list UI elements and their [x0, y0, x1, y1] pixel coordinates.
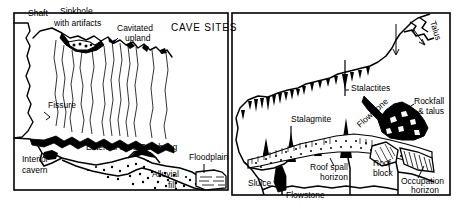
label-roof: Roof	[373, 158, 392, 168]
label-interior: Interior	[22, 154, 49, 164]
label-external-cave-overhang: External cave Overhang	[86, 142, 177, 152]
label-stalagmite: Stalagmite	[291, 114, 331, 124]
figure-title: CAVE SITES	[171, 22, 237, 33]
label-sinkhole: Sinkhole	[60, 6, 93, 16]
floodplain-water	[196, 170, 226, 190]
label-fill: fill	[168, 180, 176, 190]
figure-canvas: Shaft Sinkhole with artifacts Cavitated …	[0, 0, 459, 222]
label-upland: upland	[125, 33, 151, 43]
label-roof-spall: Roof spall	[310, 162, 348, 172]
cave-sites-figure: Shaft Sinkhole with artifacts Cavitated …	[0, 0, 459, 222]
label-alluvial: Alluvial	[152, 169, 179, 179]
label-floodplain: Floodplain	[189, 152, 228, 162]
label-flowstone-lower: Flowstone	[286, 190, 325, 200]
label-occupation-horizon: horizon	[411, 185, 439, 195]
label-with-artifacts: with artifacts	[53, 18, 101, 28]
label-cavitated: Cavitated	[117, 23, 153, 33]
label-spall-horizon: horizon	[320, 172, 348, 182]
label-block: block	[373, 168, 394, 178]
label-fissure: Fissure	[48, 100, 76, 110]
label-stalactites: Stalactites	[351, 83, 390, 93]
label-and-talus: & talus	[418, 106, 444, 116]
label-shaft: Shaft	[28, 8, 48, 18]
label-sluice: Sluice	[248, 178, 271, 188]
label-rockfall: Rockfall	[414, 96, 444, 106]
label-cavern: cavern	[22, 165, 48, 175]
